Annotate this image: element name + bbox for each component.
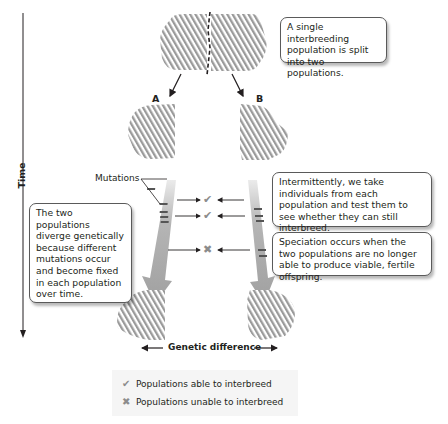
speciation-callout: Speciation occurs when the two populatio… (272, 232, 432, 276)
legend-item-able: ✔ Populations able to interbreed (122, 378, 272, 389)
population-a-lineage-arrow (142, 180, 176, 304)
population-a-mid (128, 104, 175, 159)
test-callout: Intermittently, we take individuals from… (272, 172, 432, 227)
mutations-label: Mutations (95, 173, 139, 183)
population-a-label: A (152, 93, 159, 104)
cross-icon: ✖ (122, 396, 136, 407)
original-population (160, 12, 267, 75)
population-b-label: B (256, 93, 263, 104)
legend-label: Populations able to interbreed (136, 379, 272, 389)
population-b-lineage-arrow (248, 180, 275, 304)
population-b-mid (240, 104, 288, 160)
cross-icon: ✖ (203, 243, 212, 256)
check-icon: ✔ (203, 193, 212, 206)
population-b-final (247, 290, 295, 340)
split-callout: A single interbreeding population is spl… (280, 17, 387, 63)
mutations-leader-lines (141, 179, 167, 204)
diverge-callout: The two populations diverge genetically … (29, 203, 132, 303)
legend: ✔ Populations able to interbreed ✖ Popul… (112, 370, 298, 416)
split-arrow-a (170, 74, 181, 96)
check-icon: ✔ (203, 209, 212, 222)
genetic-difference-label: Genetic difference (168, 342, 261, 352)
check-icon: ✔ (122, 378, 136, 389)
legend-item-unable: ✖ Populations unable to interbreed (122, 396, 283, 407)
split-arrow-b (232, 74, 243, 96)
legend-label: Populations unable to interbreed (136, 397, 283, 407)
time-axis-label: Time (16, 156, 27, 196)
